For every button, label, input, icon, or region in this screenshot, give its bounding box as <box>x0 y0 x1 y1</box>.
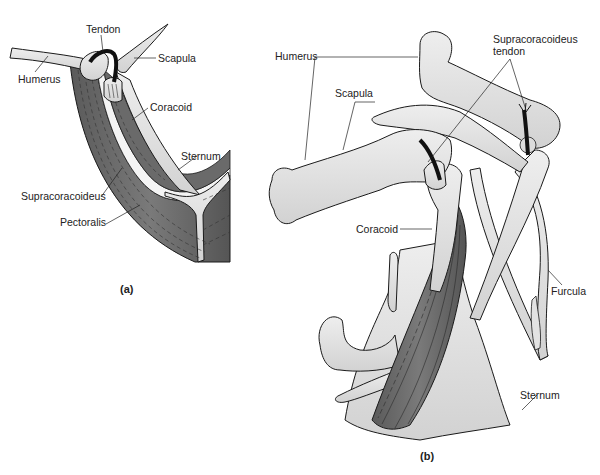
panel-a-drawing <box>10 24 230 262</box>
label-b-sternum: Sternum <box>520 389 560 401</box>
anatomy-illustration <box>0 0 600 475</box>
label-a-pectoralis: Pectoralis <box>60 216 106 228</box>
label-a-humerus: Humerus <box>18 73 61 85</box>
caption-panel-a: (a) <box>120 283 133 295</box>
label-b-scapula: Scapula <box>335 87 373 99</box>
label-a-sternum: Sternum <box>181 150 221 162</box>
label-a-coracoid: Coracoid <box>150 101 192 113</box>
panel-b-drawing <box>269 32 562 440</box>
label-b-coracoid: Coracoid <box>356 223 398 235</box>
label-b-supracoracoideus-tendon-line1: Supracoracoideus <box>493 33 578 45</box>
caption-panel-b: (b) <box>420 450 434 462</box>
label-a-tendon: Tendon <box>86 23 120 35</box>
label-b-humerus: Humerus <box>275 50 318 62</box>
bird-flight-muscle-figure: Tendon Scapula Humerus Coracoid Sternum … <box>0 0 600 475</box>
label-b-furcula: Furcula <box>551 285 586 297</box>
label-b-supracoracoideus-tendon-line2: tendon <box>493 45 525 57</box>
label-a-supracoracoideus: Supracoracoideus <box>21 190 106 202</box>
label-a-scapula: Scapula <box>158 52 196 64</box>
